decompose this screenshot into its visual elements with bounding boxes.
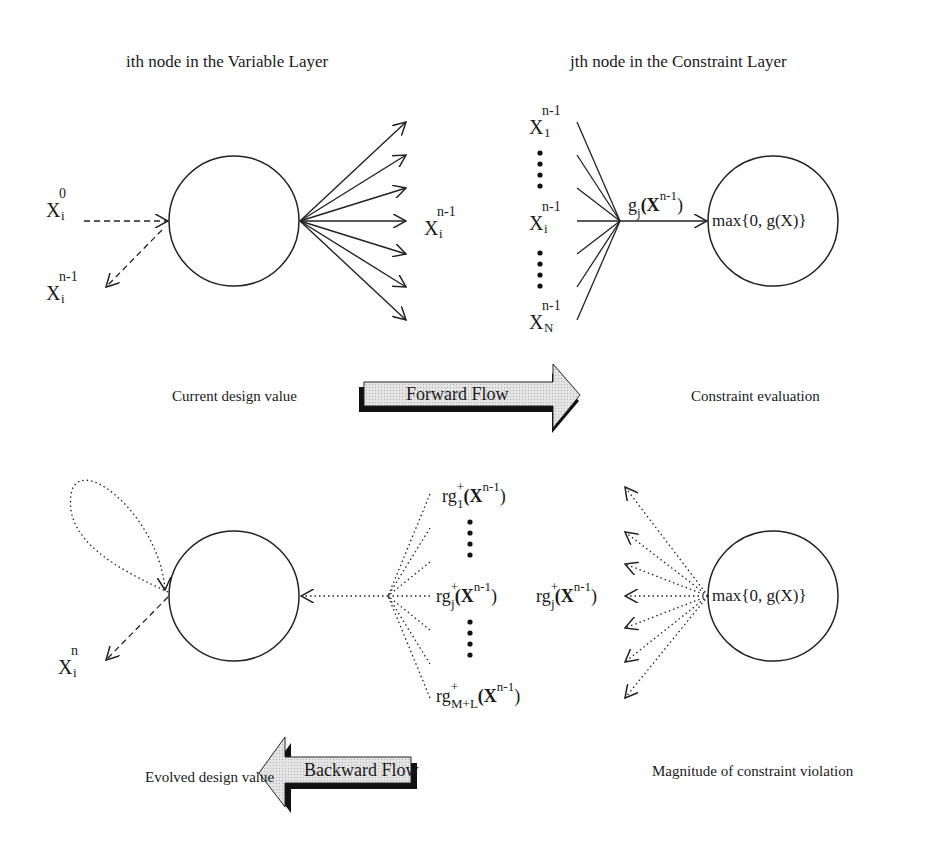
constraint-evaluation-caption: Constraint evaluation bbox=[691, 388, 820, 405]
input-x-1-label: Xn-11 bbox=[529, 117, 543, 137]
evolved-output-arrow bbox=[106, 597, 168, 660]
constraint-node-text-bottom: max{0, g(X)} bbox=[712, 587, 807, 604]
penalty-term-middle: rg+j(Xn-1) bbox=[536, 587, 597, 605]
backward-flow-label: Backward Flow bbox=[304, 760, 418, 781]
previous-output-arrow bbox=[106, 230, 162, 287]
variable-node-circle bbox=[169, 156, 299, 286]
self-loop bbox=[70, 480, 168, 592]
backward-fanin-lines bbox=[388, 494, 430, 698]
backward-fanout-arrows bbox=[625, 487, 708, 698]
evolved-node-circle bbox=[169, 531, 299, 661]
constraint-node-text-top: max{0, g(X)} bbox=[712, 212, 807, 229]
fanin-lines bbox=[577, 122, 620, 320]
penalty-term-j: rg+j(Xn-1) bbox=[436, 587, 497, 605]
fanout-arrows bbox=[300, 122, 406, 320]
penalty-term-1: rg+1(Xn-1) bbox=[442, 487, 506, 505]
diagram-canvas bbox=[0, 0, 936, 842]
input-x-i-label: Xn-1i bbox=[529, 213, 543, 233]
constraint-layer-title: jth node in the Constraint Layer bbox=[570, 52, 787, 72]
x-i-n1-right-label: Xn-1i bbox=[424, 218, 438, 238]
current-design-caption: Current design value bbox=[172, 388, 297, 405]
evolved-design-caption: Evolved design value bbox=[145, 769, 274, 786]
variable-layer-title: ith node in the Variable Layer bbox=[126, 52, 328, 72]
x-i-0-label: X0i bbox=[46, 200, 60, 220]
constraint-edge-label: gj(Xn-1) bbox=[628, 196, 683, 214]
forward-flow-label: Forward Flow bbox=[406, 384, 509, 405]
penalty-term-m-plus-l: rg+M+L(Xn-1) bbox=[436, 687, 520, 705]
x-i-n1-left-label: Xn-1i bbox=[46, 283, 60, 303]
input-x-n-label: Xn-1N bbox=[529, 312, 543, 332]
x-i-n-label: Xni bbox=[58, 657, 72, 677]
constraint-violation-caption: Magnitude of constraint violation bbox=[652, 763, 853, 780]
